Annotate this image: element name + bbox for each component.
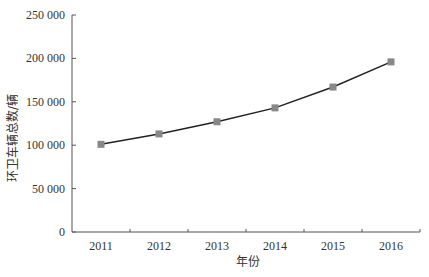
y-tick-label: 200 000	[26, 51, 65, 65]
data-point-marker	[330, 84, 337, 91]
x-axis: 201120122013201420152016	[72, 229, 420, 253]
data-point-marker	[214, 118, 221, 125]
x-axis-title: 年份	[236, 255, 260, 269]
data-series	[98, 58, 395, 147]
data-point-marker	[156, 130, 163, 137]
x-tick-label: 2012	[147, 239, 171, 253]
data-point-marker	[388, 58, 395, 65]
y-tick-label: 250 000	[26, 8, 65, 22]
y-tick-label: 100 000	[26, 138, 65, 152]
y-axis: 050 000100 000150 000200 000250 000	[26, 8, 76, 239]
data-point-marker	[98, 141, 105, 148]
data-point-marker	[272, 104, 279, 111]
y-tick-label: 50 000	[32, 182, 65, 196]
line-chart: 050 000100 000150 000200 000250 000 2011…	[0, 0, 429, 277]
x-tick-label: 2013	[205, 239, 229, 253]
series-line	[101, 62, 391, 144]
y-tick-label: 0	[59, 225, 65, 239]
y-tick-label: 150 000	[26, 95, 65, 109]
x-tick-label: 2015	[321, 239, 345, 253]
x-tick-label: 2016	[379, 239, 403, 253]
x-tick-label: 2011	[89, 239, 113, 253]
x-tick-label: 2014	[263, 239, 287, 253]
y-axis-title: 环卫车辆总数/辆	[5, 94, 20, 182]
